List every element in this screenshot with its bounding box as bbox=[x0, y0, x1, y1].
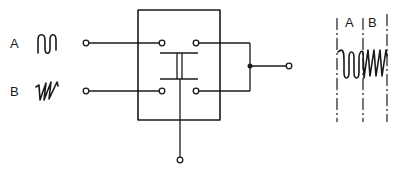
contact-b-out bbox=[193, 88, 199, 94]
input-a-waveform-icon bbox=[38, 35, 56, 54]
input-a-label: A bbox=[10, 36, 19, 51]
input-a-terminal bbox=[83, 40, 89, 46]
input-b-terminal bbox=[83, 88, 89, 94]
circuit-diagram: A B A B bbox=[0, 0, 401, 183]
output-terminal bbox=[286, 63, 292, 69]
contact-a-in bbox=[159, 40, 165, 46]
contact-b-in bbox=[159, 88, 165, 94]
switch-box bbox=[138, 10, 220, 120]
input-b-waveform-icon bbox=[36, 82, 58, 100]
control-terminal bbox=[177, 157, 183, 163]
segment-b-label: B bbox=[368, 15, 377, 30]
input-b-label: B bbox=[10, 84, 19, 99]
contact-a-out bbox=[193, 40, 199, 46]
segment-a-label: A bbox=[345, 15, 354, 30]
